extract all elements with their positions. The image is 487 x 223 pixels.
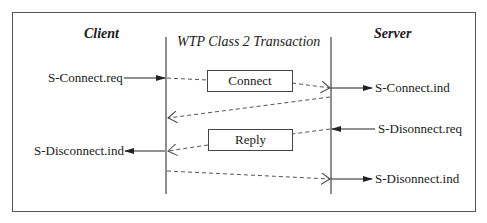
connect-dashed-left <box>167 78 207 80</box>
reply-dashed-left <box>168 145 208 151</box>
connect-dashed-right <box>292 83 330 88</box>
connect-message-box: Connect <box>207 70 293 92</box>
client-header: Client <box>84 26 119 42</box>
diagram-title: WTP Class 2 Transaction <box>177 34 320 50</box>
reply-dashed-right <box>292 129 330 134</box>
ack-dashed-return <box>168 97 330 118</box>
disconnect-req-label: S-Disonnect.req <box>378 122 462 136</box>
client-disconnect-ind-label: S-Disconnect.ind <box>34 144 124 158</box>
server-disconnect-ind-label: S-Disonnect.ind <box>375 172 459 186</box>
server-header: Server <box>374 26 411 42</box>
final-dashed <box>167 171 330 179</box>
connect-req-label: S-Connect.req <box>48 71 123 85</box>
sequence-diagram: Client WTP Class 2 Transaction Server Co… <box>0 0 487 223</box>
reply-message-box: Reply <box>208 129 293 151</box>
connect-ind-label: S-Connect.ind <box>375 81 450 95</box>
